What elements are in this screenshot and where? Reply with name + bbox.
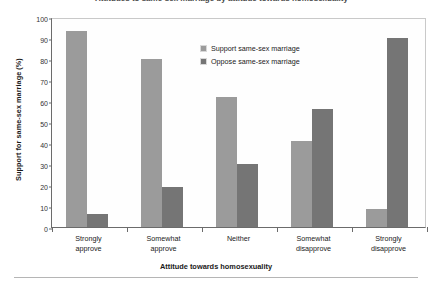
y-tick-label: 60: [40, 100, 48, 107]
x-category-label-line: Neither: [201, 234, 276, 244]
legend-swatch-icon: [200, 58, 207, 65]
figure-title: Attitudes to same-sex marriage by attitu…: [95, 0, 348, 3]
x-tick-mark: [127, 227, 128, 232]
x-category-label-line: approve: [126, 244, 201, 254]
legend-item: Support same-sex marriage: [200, 42, 300, 55]
y-tick-mark: [49, 103, 52, 104]
x-category-label-line: Strongly: [351, 234, 426, 244]
y-tick-label: 80: [40, 58, 48, 65]
bar-support: [141, 59, 162, 227]
x-tick-mark: [202, 227, 203, 232]
y-tick-mark: [49, 19, 52, 20]
bar-oppose: [162, 187, 183, 227]
y-tick-label: 20: [40, 184, 48, 191]
x-category-label: Stronglydisapprove: [351, 234, 426, 253]
y-tick-label: 10: [40, 205, 48, 212]
bar-oppose: [387, 38, 408, 227]
x-category-label-line: disapprove: [351, 244, 426, 254]
x-tick-mark: [277, 227, 278, 232]
bar-support: [216, 97, 237, 227]
y-axis-title: Support for same-sex marriage (%): [14, 35, 23, 205]
legend-label: Oppose same-sex marriage: [211, 57, 300, 66]
x-tick-mark: [52, 227, 53, 232]
y-tick-label: 90: [40, 37, 48, 44]
bar-oppose: [87, 214, 108, 227]
x-category-label-line: disapprove: [276, 244, 351, 254]
x-category-label-line: Somewhat: [276, 234, 351, 244]
y-tick-mark: [49, 40, 52, 41]
x-category-label-line: Somewhat: [126, 234, 201, 244]
x-category-label: Somewhatdisapprove: [276, 234, 351, 253]
bar-oppose: [312, 109, 333, 227]
y-tick-label: 70: [40, 79, 48, 86]
y-tick-mark: [49, 208, 52, 209]
y-tick-mark: [49, 82, 52, 83]
y-tick-label: 0: [44, 226, 48, 233]
x-category-label: Neither: [201, 234, 276, 244]
x-category-label-line: Strongly: [51, 234, 126, 244]
bar-oppose: [237, 164, 258, 227]
y-tick-label: 50: [40, 121, 48, 128]
bar-support: [66, 31, 87, 227]
y-tick-mark: [49, 166, 52, 167]
bottom-divider-rule: [14, 277, 418, 278]
x-category-label: Somewhatapprove: [126, 234, 201, 253]
x-tick-mark: [427, 227, 428, 232]
y-tick-label: 40: [40, 142, 48, 149]
legend-item: Oppose same-sex marriage: [200, 55, 300, 68]
x-category-label-line: approve: [51, 244, 126, 254]
chart-legend: Support same-sex marriageOppose same-sex…: [200, 42, 300, 68]
x-tick-mark: [352, 227, 353, 232]
y-tick-label: 100: [36, 16, 48, 23]
legend-swatch-icon: [200, 45, 207, 52]
legend-label: Support same-sex marriage: [211, 44, 300, 53]
x-category-label: Stronglyapprove: [51, 234, 126, 253]
bar-support: [291, 141, 312, 227]
x-axis-title: Attitude towards homosexuality: [0, 262, 432, 271]
y-tick-mark: [49, 145, 52, 146]
y-tick-mark: [49, 61, 52, 62]
y-tick-mark: [49, 124, 52, 125]
y-tick-label: 30: [40, 163, 48, 170]
y-tick-mark: [49, 187, 52, 188]
clipped-title-strip: Attitudes to same-sex marriage by attitu…: [0, 0, 432, 7]
bar-chart-figure: Attitudes to same-sex marriage by attitu…: [0, 0, 432, 288]
bar-support: [366, 209, 387, 227]
